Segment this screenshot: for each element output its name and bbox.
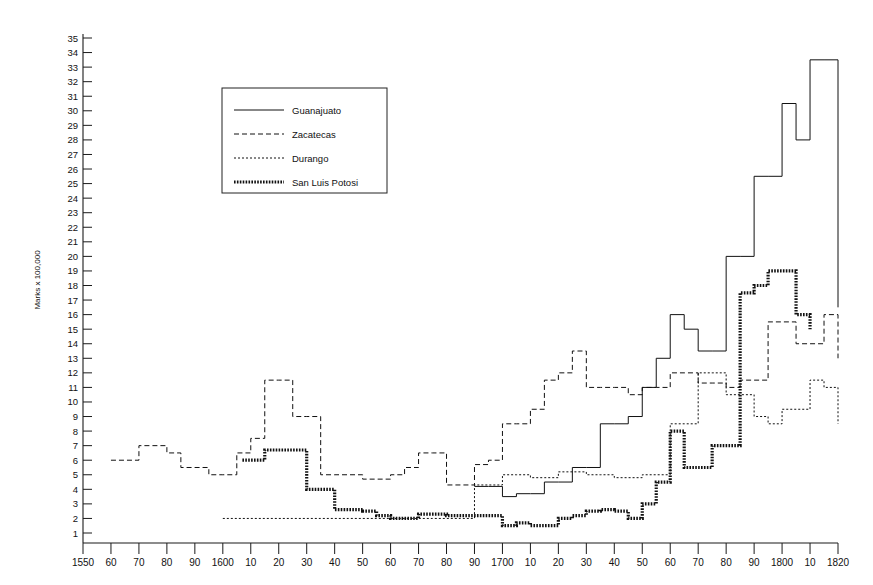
y-tick-label: 17 xyxy=(67,295,78,306)
y-tick-label: 11 xyxy=(68,382,78,393)
x-tick-label: 10 xyxy=(525,557,537,568)
y-tick-label: 28 xyxy=(67,134,78,145)
x-tick-label: 20 xyxy=(553,557,565,568)
y-tick-label: 14 xyxy=(67,338,78,349)
x-tick-label: 50 xyxy=(357,557,369,568)
x-tick-label: 80 xyxy=(441,557,453,568)
x-tick-label: 40 xyxy=(609,557,621,568)
x-tick-label: 1700 xyxy=(491,557,514,568)
y-tick-label: 2 xyxy=(73,513,78,524)
series-line-zacatecas xyxy=(111,315,838,485)
y-tick-label: 9 xyxy=(73,411,78,422)
x-tick-label: 60 xyxy=(105,557,117,568)
x-tick-label: 1550 xyxy=(72,557,95,568)
y-tick-label: 8 xyxy=(73,426,78,437)
y-tick-label: 6 xyxy=(73,455,78,466)
y-tick-label: 23 xyxy=(67,207,78,218)
x-tick-label: 10 xyxy=(804,557,816,568)
y-tick-label: 25 xyxy=(67,178,78,189)
x-tick-label: 70 xyxy=(133,557,145,568)
series-line-durango xyxy=(223,373,838,519)
y-tick-label: 27 xyxy=(67,149,78,160)
series-line-guanajuato xyxy=(474,60,838,497)
x-tick-label: 1800 xyxy=(771,557,794,568)
legend-label-guanajuato: Guanajuato xyxy=(292,105,341,116)
chart-canvas: 1234567891011121314151617181920212223242… xyxy=(0,0,873,585)
y-tick-label: 4 xyxy=(73,484,78,495)
x-tick-label: 10 xyxy=(245,557,257,568)
y-tick-label: 29 xyxy=(67,120,78,131)
x-tick-label: 80 xyxy=(721,557,733,568)
x-tick-label: 30 xyxy=(581,557,593,568)
y-tick-label: 34 xyxy=(67,47,78,58)
legend-label-san-luis-potosi: San Luis Potosi xyxy=(292,177,358,188)
x-tick-label: 1820 xyxy=(827,557,850,568)
x-tick-label: 60 xyxy=(665,557,677,568)
series-line-san-luis-potosi xyxy=(242,271,810,526)
legend-label-durango: Durango xyxy=(292,153,328,164)
y-tick-label: 31 xyxy=(67,91,78,102)
y-tick-label: 22 xyxy=(67,222,78,233)
x-tick-label: 90 xyxy=(749,557,761,568)
y-tick-label: 20 xyxy=(67,251,78,262)
y-tick-label: 7 xyxy=(73,440,78,451)
legend-label-zacatecas: Zacatecas xyxy=(292,129,336,140)
y-axis-label: Marks x 100,000 xyxy=(33,250,42,310)
y-tick-label: 1 xyxy=(73,528,78,539)
x-tick-label: 40 xyxy=(329,557,341,568)
y-tick-label: 16 xyxy=(67,309,78,320)
y-tick-label: 32 xyxy=(67,76,78,87)
y-tick-label: 13 xyxy=(67,353,78,364)
y-tick-label: 3 xyxy=(73,498,78,509)
x-tick-label: 90 xyxy=(469,557,481,568)
y-tick-label: 35 xyxy=(67,33,78,44)
x-tick-label: 70 xyxy=(413,557,425,568)
y-tick-label: 33 xyxy=(67,62,78,73)
x-tick-label: 60 xyxy=(385,557,397,568)
x-tick-label: 30 xyxy=(301,557,313,568)
y-tick-label: 10 xyxy=(67,396,78,407)
x-tick-label: 1600 xyxy=(212,557,235,568)
x-tick-label: 80 xyxy=(161,557,173,568)
y-tick-label: 19 xyxy=(67,265,78,276)
y-tick-label: 18 xyxy=(67,280,78,291)
x-tick-label: 50 xyxy=(637,557,649,568)
x-tick-label: 90 xyxy=(189,557,201,568)
y-tick-label: 21 xyxy=(67,236,78,247)
x-tick-label: 70 xyxy=(693,557,705,568)
y-tick-label: 12 xyxy=(67,367,78,378)
x-tick-label: 20 xyxy=(273,557,285,568)
y-tick-label: 30 xyxy=(67,105,78,116)
y-tick-label: 5 xyxy=(73,469,78,480)
y-tick-label: 26 xyxy=(67,164,78,175)
y-tick-label: 15 xyxy=(67,324,78,335)
y-tick-label: 24 xyxy=(67,193,78,204)
chart-figure: 1234567891011121314151617181920212223242… xyxy=(0,0,873,585)
